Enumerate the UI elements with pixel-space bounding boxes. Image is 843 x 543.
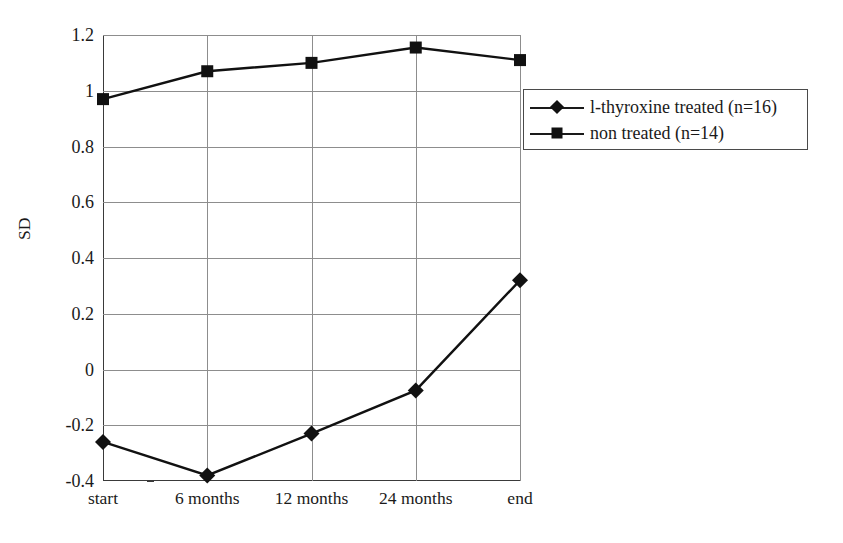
x-axis-tick-label: start bbox=[88, 489, 118, 507]
legend-item-treated: l-thyroxine treated (n=16) bbox=[530, 94, 801, 120]
series-line bbox=[103, 48, 520, 100]
series-line bbox=[103, 280, 520, 475]
x-axis-tick-label: 24 months bbox=[379, 489, 452, 507]
data-point-diamond bbox=[304, 426, 320, 442]
legend-item-non-treated: non treated (n=14) bbox=[530, 120, 801, 146]
data-point-diamond bbox=[95, 434, 111, 450]
square-marker-icon bbox=[530, 123, 584, 143]
data-point-diamond bbox=[199, 467, 215, 483]
x-axis-tick-label: end bbox=[507, 489, 532, 507]
x-axis-tick-label: 12 months bbox=[275, 489, 348, 507]
chart-legend: l-thyroxine treated (n=16) non treated (… bbox=[523, 89, 808, 150]
x-axis-tick-labels: start6 months12 months24 monthsend bbox=[0, 489, 843, 519]
diamond-marker-icon bbox=[530, 97, 584, 117]
data-point-square bbox=[410, 42, 422, 54]
line-chart: SD -0.4-0.200.20.40.60.811.2 start6 mont… bbox=[0, 0, 843, 543]
legend-label-non-treated: non treated (n=14) bbox=[590, 123, 724, 143]
series-layer bbox=[0, 0, 843, 543]
data-point-square bbox=[97, 93, 109, 105]
x-axis-tick-label: 6 months bbox=[175, 489, 240, 507]
data-point-square bbox=[514, 54, 526, 66]
legend-label-treated: l-thyroxine treated (n=16) bbox=[590, 97, 777, 117]
data-point-square bbox=[306, 57, 318, 69]
data-point-square bbox=[201, 65, 213, 77]
